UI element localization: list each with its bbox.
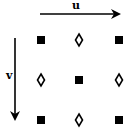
filled-square-marker [75, 76, 83, 84]
pattern-grid [37, 34, 123, 126]
hollow-diamond-marker [76, 34, 83, 46]
filled-square-marker [37, 116, 45, 124]
u-axis-label: u [72, 0, 80, 12]
filled-square-marker [37, 36, 45, 44]
hollow-diamond-marker [38, 74, 45, 86]
hollow-diamond-marker [76, 114, 83, 126]
v-axis-label: v [6, 69, 12, 82]
hollow-diamond-marker [116, 74, 123, 86]
filled-square-marker [115, 36, 123, 44]
filled-square-marker [115, 116, 123, 124]
diagram-canvas [0, 0, 128, 133]
